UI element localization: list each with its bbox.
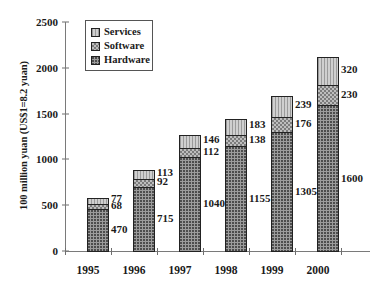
bar-segment-services-1999[interactable] [271,96,293,118]
bar-stack [179,135,201,251]
x-axis-tick-mark [111,248,112,255]
x-axis-label-1995: 1995 [65,264,111,276]
bar-stack [133,170,155,251]
services-swatch [91,28,100,37]
value-label-services-2000: 320 [341,63,358,74]
x-axis-label-1997: 1997 [157,264,203,276]
bar-segment-services-1998[interactable] [225,119,247,136]
y-axis-tick-label: 1000 [22,154,58,165]
bar-segment-software-2000[interactable] [317,85,339,106]
y-axis-tick-label: 0 [22,246,58,257]
x-axis-tick-mark [341,248,342,255]
bar-stack [225,119,247,251]
bar-segment-services-2000[interactable] [317,57,339,86]
y-axis-tick-label: 500 [22,200,58,211]
software-swatch [91,42,100,51]
legend-item-services[interactable]: Services [91,25,148,39]
bar-segment-services-1997[interactable] [179,135,201,148]
bar-group-1999[interactable]: 1305176239 [259,22,305,251]
x-axis-ticks: 199519961997199819992000 [65,251,370,296]
hardware-swatch [91,56,100,65]
chart-legend: ServicesSoftwareHardware [85,20,153,71]
bar-segment-hardware-2000[interactable] [317,105,339,252]
x-axis-tick-mark [157,248,158,255]
legend-item-label: Software [104,41,144,52]
bar-stack [317,57,339,251]
y-axis-tick-label: 2000 [22,62,58,73]
bar-stack [271,96,293,251]
bar-segment-hardware-1999[interactable] [271,132,293,252]
value-label-hardware-2000: 1600 [341,172,363,183]
bar-stack [87,198,109,251]
bar-segment-hardware-1996[interactable] [133,187,155,252]
y-axis-tick-label: 1500 [22,108,58,119]
x-axis-tick-mark [249,248,250,255]
x-axis-label-1996: 1996 [111,264,157,276]
legend-item-hardware[interactable]: Hardware [91,53,148,67]
stacked-bar-chart: 100 million yuan (US$1=8.2 yuan) 0500100… [0,0,379,296]
y-axis-tick-label: 2500 [22,17,58,28]
bar-group-1998[interactable]: 1155138183 [213,22,259,251]
value-label-software-2000: 230 [341,88,358,99]
x-axis-label-1999: 1999 [249,264,295,276]
bar-group-2000[interactable]: 1600230320 [305,22,351,251]
bar-segment-hardware-1997[interactable] [179,157,201,252]
x-axis-label-2000: 2000 [295,264,341,276]
x-axis-tick-mark [65,248,66,255]
legend-item-label: Hardware [104,55,150,66]
x-axis-tick-mark [295,248,296,255]
bar-segment-hardware-1995[interactable] [87,209,109,252]
legend-item-label: Services [104,27,141,38]
bar-segment-hardware-1998[interactable] [225,146,247,252]
bar-segment-software-1999[interactable] [271,117,293,133]
x-axis-label-1998: 1998 [203,264,249,276]
bar-group-1997[interactable]: 1040112146 [167,22,213,251]
x-axis-tick-mark [203,248,204,255]
legend-item-software[interactable]: Software [91,39,148,53]
